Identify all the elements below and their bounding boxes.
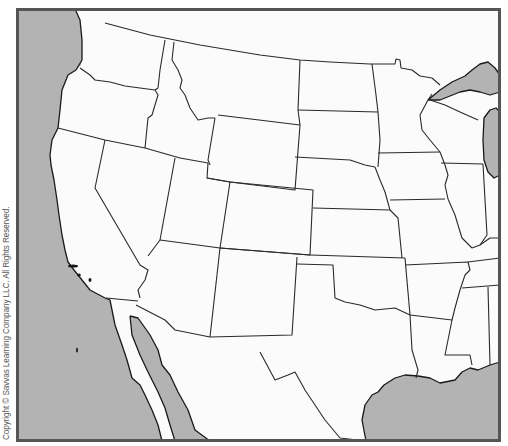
copyright-notice: Copyright © Savvas Learning Company LLC.… <box>2 200 14 440</box>
outline-map <box>0 0 508 446</box>
